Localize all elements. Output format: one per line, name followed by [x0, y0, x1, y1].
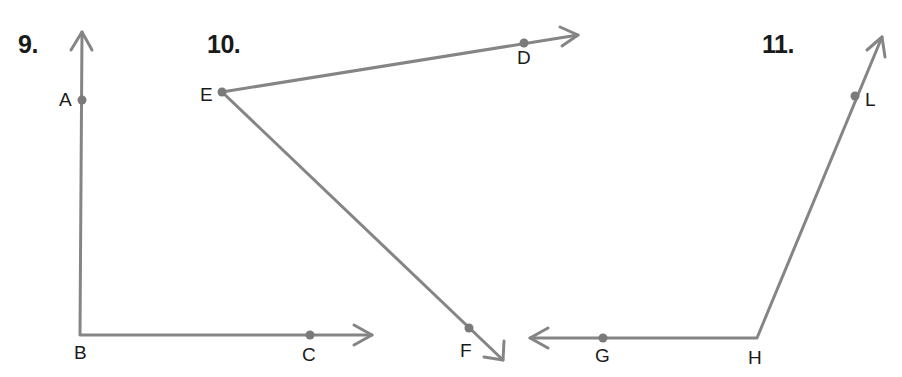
- angle-ghl: [530, 37, 885, 348]
- label-l: L: [865, 89, 876, 111]
- problem-number-10: 10.: [207, 30, 240, 59]
- point-g: [599, 334, 608, 343]
- point-f: [465, 324, 474, 333]
- label-f: F: [460, 340, 472, 362]
- point-c: [306, 331, 315, 340]
- ray-ba: [80, 32, 372, 335]
- label-e: E: [200, 84, 213, 106]
- angle-abc: [71, 32, 372, 345]
- point-a: [78, 96, 87, 105]
- label-h: H: [748, 347, 762, 369]
- problem-number-9: 9.: [18, 30, 38, 59]
- problem-number-11: 11.: [762, 30, 794, 59]
- point-e: [218, 88, 227, 97]
- label-a: A: [59, 89, 72, 111]
- rays-ed-ef: [222, 35, 578, 360]
- label-b: B: [74, 342, 87, 364]
- rays-hg-hl: [530, 37, 882, 338]
- label-d: D: [517, 47, 531, 69]
- angle-def: [222, 27, 578, 360]
- point-l: [851, 92, 860, 101]
- label-c: C: [302, 344, 316, 366]
- label-g: G: [595, 345, 610, 367]
